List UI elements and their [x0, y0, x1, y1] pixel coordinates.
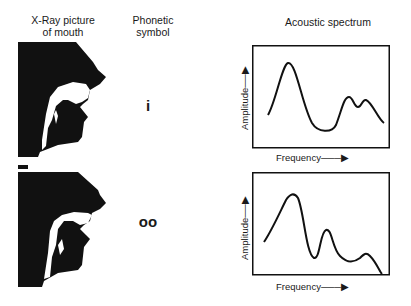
- arrow-right-icon: ───▶: [321, 152, 349, 163]
- amplitude-label: Amplitude: [239, 218, 250, 260]
- xray-mouth-image-oo: [18, 165, 108, 287]
- amplitude-axis-label-2: Amplitude──▶: [239, 196, 250, 260]
- spectrum-plot-oo: [252, 172, 390, 276]
- xray-header-line1: X-Ray picture: [8, 14, 118, 26]
- frequency-axis-label-1: Frequency───▶: [276, 152, 349, 163]
- frequency-axis-label-2: Frequency───▶: [276, 281, 349, 292]
- spectrum-header: Acoustic spectrum: [268, 16, 388, 28]
- phonetic-symbol-oo: oo: [128, 213, 168, 230]
- amplitude-axis-label-1: Amplitude──▶: [239, 66, 250, 130]
- phonetic-header-line2: symbol: [118, 26, 188, 38]
- xray-header: X-Ray picture of mouth: [8, 14, 118, 38]
- frequency-label: Frequency: [276, 281, 321, 292]
- amplitude-label: Amplitude: [239, 88, 250, 130]
- frequency-label: Frequency: [276, 152, 321, 163]
- arrow-up-icon: ──▶: [239, 66, 250, 87]
- spectrum-plot-i: [252, 45, 390, 149]
- xray-header-line2: of mouth: [8, 26, 118, 38]
- arrow-right-icon: ───▶: [321, 281, 349, 292]
- phonetic-symbol-i: i: [128, 97, 168, 114]
- arrow-up-icon: ──▶: [239, 196, 250, 217]
- xray-mouth-image-i: [18, 42, 108, 157]
- phonetic-header: Phonetic symbol: [118, 14, 188, 38]
- phonetic-header-line1: Phonetic: [118, 14, 188, 26]
